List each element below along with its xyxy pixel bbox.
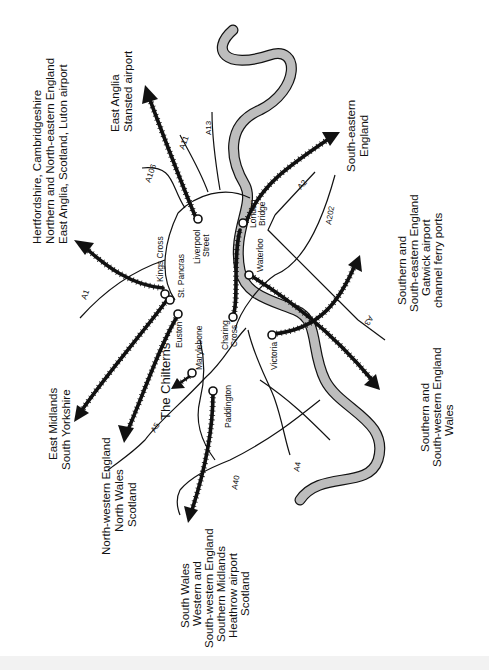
road-a3: A3 — [362, 314, 375, 327]
dest-waterloo-3: Wales — [443, 404, 455, 436]
label-victoria: Victoria — [269, 342, 279, 370]
road-a13: A13 — [204, 120, 213, 135]
dest-kings-cross-3: East Anglia, Scotland, Luton airport — [57, 64, 69, 244]
dest-paddington-4: Southern Midlands — [215, 546, 227, 642]
dest-gatwick-4: channel ferry ports — [432, 213, 444, 308]
dest-euston-3: Scotland — [126, 482, 138, 527]
dest-london-bridge-2: England — [358, 115, 370, 157]
dest-waterloo-1: Southern and — [419, 383, 431, 452]
dest-paddington-1: South Wales — [179, 563, 191, 628]
dest-paddington-3: South-western England — [203, 528, 215, 648]
station-london-bridge[interactable] — [239, 219, 247, 227]
dest-kings-cross-1: Hertfordshire, Cambridgeshire — [31, 90, 43, 244]
dest-st-pancras-1: East Midlands — [47, 388, 59, 460]
dest-paddington-5: Heathrow airport — [227, 552, 239, 638]
dest-paddington-6: Scotland — [239, 571, 251, 616]
dest-marylebone: The Chilterns — [158, 342, 173, 420]
label-marylebone: Marylebone — [194, 325, 204, 370]
label-waterloo: Waterloo — [255, 238, 265, 272]
road-a202: A202 — [324, 205, 336, 226]
station-waterloo[interactable] — [245, 271, 253, 279]
dest-euston-1: North-western England — [100, 437, 112, 555]
dest-gatwick-3: Gatwick airport — [420, 219, 432, 296]
dest-gatwick-2: South-eastern England — [408, 194, 420, 312]
station-victoria[interactable] — [268, 331, 276, 339]
label-euston: Euston — [174, 321, 184, 348]
dest-paddington-2: Western and — [191, 561, 203, 626]
dest-gatwick-1: Southern and — [396, 236, 408, 305]
road-a106: A106 — [143, 163, 158, 184]
label-liverpool-street-2: Street — [201, 234, 211, 257]
scan-edge — [0, 656, 489, 670]
label-charing-cross-2: Cross — [229, 325, 239, 347]
station-st-pancras[interactable] — [166, 296, 174, 304]
road-a1: A1 — [79, 288, 91, 301]
label-kings-cross: Kings Cross — [155, 236, 165, 282]
rail-lines — [74, 85, 380, 523]
dest-liverpool-street-1: East Anglia — [109, 74, 121, 132]
london-rail-terminals-map: Kings Cross St. Pancras Euston Marylebon… — [0, 0, 489, 670]
label-st-pancras: St. Pancras — [176, 254, 186, 298]
station-charing-cross[interactable] — [229, 313, 237, 321]
station-paddington[interactable] — [209, 387, 217, 395]
dest-euston-2: North Wales — [113, 469, 125, 532]
dest-st-pancras-2: South Yorkshire — [60, 389, 72, 470]
station-euston[interactable] — [174, 310, 182, 318]
road-a4: A4 — [292, 461, 303, 473]
dest-london-bridge-1: South-eastern — [345, 100, 357, 172]
road-a11: A11 — [177, 134, 190, 150]
label-paddington: Paddington — [223, 385, 233, 428]
dest-kings-cross-2: Northern and North-eastern England — [44, 58, 56, 244]
dest-waterloo-2: South-western England — [431, 347, 443, 467]
dest-liverpool-street-2: Stansted airport — [122, 50, 134, 132]
road-a40: A40 — [230, 474, 241, 490]
destination-labels: Hertfordshire, Cambridgeshire Northern a… — [31, 50, 455, 648]
label-london-bridge-2: Bridge — [257, 201, 267, 226]
station-liverpool-street[interactable] — [194, 215, 202, 223]
